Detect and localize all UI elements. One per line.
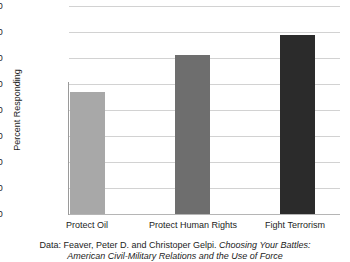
y-axis-tick-20: 20 <box>0 158 3 167</box>
y-axis-tick-40: 40 <box>0 106 3 115</box>
caption-book-title-part2: American Civil-Military Relations and th… <box>0 251 350 262</box>
bar-protect-oil <box>70 92 105 214</box>
y-axis-tick-60: 60 <box>0 54 3 63</box>
gridline <box>69 6 340 7</box>
y-axis-tick-10: 10 <box>0 184 3 193</box>
y-axis-tick-80: 80 <box>0 2 3 11</box>
y-axis-tick-0: 0 <box>0 210 3 219</box>
y-axis-tick-70: 70 <box>0 28 3 37</box>
bar-fight-terrorism <box>280 35 315 214</box>
x-axis-label-protect-oil: Protect Oil <box>40 220 134 231</box>
x-axis-label-fight-terrorism: Fight Terrorism <box>248 220 342 231</box>
source-caption: Data: Feaver, Peter D. and Christoper Ge… <box>0 240 350 262</box>
gridline <box>69 32 340 33</box>
y-axis-tick-50: 50 <box>0 80 3 89</box>
caption-line-1: Data: Feaver, Peter D. and Christoper Ge… <box>0 240 350 251</box>
plot-area <box>69 6 340 214</box>
caption-prefix: Data: Feaver, Peter D. and Christoper Ge… <box>40 240 220 250</box>
y-axis-title: Percent Responding <box>10 6 24 214</box>
x-axis-label-protect-human-rights: Protect Human Rights <box>133 220 253 231</box>
y-axis-tick-30: 30 <box>0 132 3 141</box>
bar-chart-figure: Percent Responding 01020304050607080 Pro… <box>0 0 350 262</box>
bar-protect-human-rights <box>175 55 210 214</box>
y-axis-line <box>68 82 69 215</box>
gridline <box>69 214 340 215</box>
caption-book-title-part1: Choosing Your Battles: <box>219 240 310 250</box>
